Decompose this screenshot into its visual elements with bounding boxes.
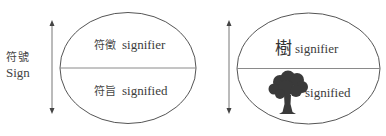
sign-label-zh: 符號	[6, 50, 46, 65]
left-sign-ellipse	[60, 13, 196, 124]
right-signifier-zh: 樹	[275, 38, 292, 58]
left-signified-zh: 符旨	[94, 85, 116, 98]
sign-diagram	[0, 0, 386, 136]
tree-icon	[269, 71, 309, 115]
right-sign-ellipse	[237, 13, 380, 124]
right-signified-en: signified	[305, 85, 351, 100]
left-signifier-zh: 符徵	[94, 39, 116, 52]
right-double-arrow	[227, 20, 232, 114]
left-signifier-label: 符徵signifier	[94, 36, 165, 53]
left-signified-label: 符旨signified	[94, 82, 168, 99]
right-signifier-en: signifier	[295, 41, 338, 56]
right-signified-label: signified	[305, 85, 351, 101]
right-signifier-label: 樹signifier	[275, 34, 338, 59]
left-double-arrow	[50, 20, 55, 114]
left-signified-en: signified	[122, 83, 168, 98]
left-signifier-en: signifier	[122, 37, 165, 52]
sign-label: 符號 Sign	[6, 50, 46, 80]
sign-label-en: Sign	[6, 65, 46, 80]
